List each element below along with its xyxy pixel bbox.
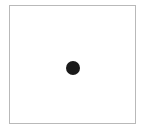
- data-point-label: [65, 60, 66, 61]
- plot-panel-label: [9, 5, 10, 6]
- screenshot-canvas: [0, 0, 146, 132]
- plot-panel[interactable]: [9, 5, 136, 124]
- data-point-dot[interactable]: [66, 61, 80, 75]
